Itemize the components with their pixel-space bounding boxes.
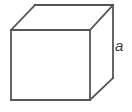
cube-face-front: [11, 30, 90, 100]
cube-figure: a: [0, 0, 132, 112]
edge-length-label-a: a: [115, 37, 131, 55]
cube-svg: [0, 0, 132, 112]
